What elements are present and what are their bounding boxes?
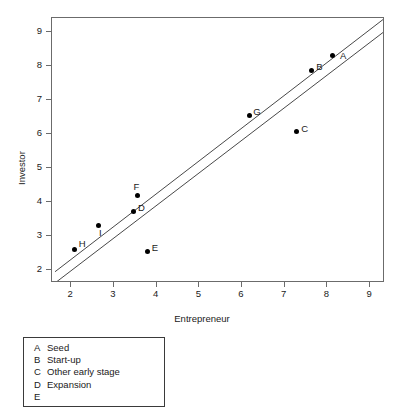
data-point-f	[135, 193, 140, 198]
y-tick-label-3: 3	[26, 230, 42, 240]
x-tick-label-8: 8	[311, 289, 341, 299]
legend-key-d: D	[34, 379, 47, 391]
y-axis-title: Investor	[16, 151, 27, 185]
legend-row-a: ASeed	[34, 342, 164, 354]
x-tick-label-7: 7	[269, 289, 299, 299]
point-label-a: A	[340, 51, 346, 61]
point-label-d: D	[138, 203, 145, 213]
y-tick-9	[46, 31, 51, 32]
legend-label-a: Seed	[47, 342, 69, 353]
y-tick-6	[46, 133, 51, 134]
data-point-b	[309, 68, 314, 73]
x-tick-4	[156, 282, 157, 287]
data-point-c	[294, 129, 299, 134]
x-tick-3	[113, 282, 114, 287]
y-tick-5	[46, 167, 51, 168]
x-tick-label-2: 2	[55, 289, 85, 299]
y-tick-label-2: 2	[26, 264, 42, 274]
x-tick-7	[284, 282, 285, 287]
x-tick-label-3: 3	[98, 289, 128, 299]
legend: ASeedBStart-upCOther early stageDExpansi…	[23, 337, 165, 407]
x-tick-2	[70, 282, 71, 287]
y-tick-label-7: 7	[26, 94, 42, 104]
legend-row-d: DExpansion	[34, 379, 164, 391]
data-point-h	[72, 247, 77, 252]
legend-key-b: B	[34, 354, 47, 366]
line-lower	[55, 31, 384, 282]
legend-row-c: COther early stage	[34, 366, 164, 378]
point-label-e: E	[152, 243, 158, 253]
x-axis-title: Entrepreneur	[0, 313, 404, 324]
legend-key-e: E	[34, 391, 47, 403]
legend-row-b: BStart-up	[34, 354, 164, 366]
data-point-g	[247, 113, 252, 118]
point-label-b: B	[316, 62, 322, 72]
point-label-f: F	[133, 182, 139, 192]
x-tick-label-6: 6	[226, 289, 256, 299]
point-label-g: G	[253, 107, 260, 117]
y-tick-4	[46, 201, 51, 202]
x-tick-label-5: 5	[183, 289, 213, 299]
y-tick-7	[46, 99, 51, 100]
x-tick-8	[326, 282, 327, 287]
y-tick-2	[46, 269, 51, 270]
y-tick-label-8: 8	[26, 60, 42, 70]
point-label-i: I	[99, 228, 102, 238]
point-label-h: H	[79, 239, 86, 249]
legend-key-c: C	[34, 366, 47, 378]
y-tick-3	[46, 235, 51, 236]
legend-row-e: E	[34, 391, 164, 403]
plot-canvas	[52, 18, 384, 282]
y-tick-label-5: 5	[26, 162, 42, 172]
legend-label-d: Expansion	[47, 379, 91, 390]
y-tick-label-6: 6	[26, 128, 42, 138]
x-tick-label-4: 4	[141, 289, 171, 299]
x-tick-label-9: 9	[354, 289, 384, 299]
x-tick-6	[241, 282, 242, 287]
legend-label-b: Start-up	[47, 354, 81, 365]
plot-area: ABCDEFGHI	[51, 17, 384, 282]
y-tick-label-4: 4	[26, 196, 42, 206]
legend-label-c: Other early stage	[47, 366, 120, 377]
x-tick-9	[369, 282, 370, 287]
point-label-c: C	[301, 124, 308, 134]
legend-key-a: A	[34, 342, 47, 354]
x-tick-5	[198, 282, 199, 287]
y-tick-label-9: 9	[26, 26, 42, 36]
y-tick-8	[46, 65, 51, 66]
